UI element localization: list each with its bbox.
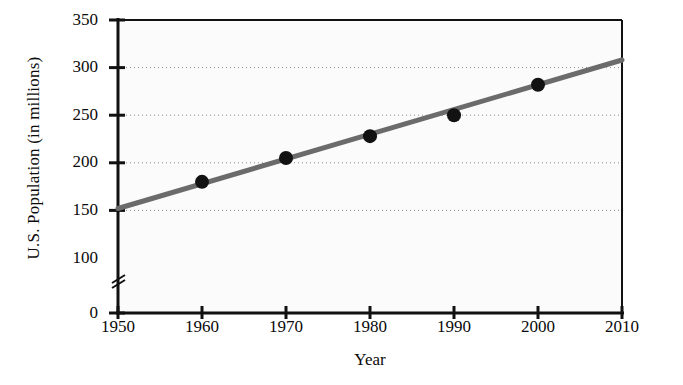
data-point-1980 [363,129,377,143]
data-point-1960 [195,175,209,189]
plot-area [0,0,683,385]
plot-background [118,20,622,313]
data-point-1990 [447,108,461,122]
data-point-1970 [279,151,293,165]
data-point-2000 [531,78,545,92]
chart-figure: U.S. Population (in millions) Year 350 3… [0,0,683,385]
